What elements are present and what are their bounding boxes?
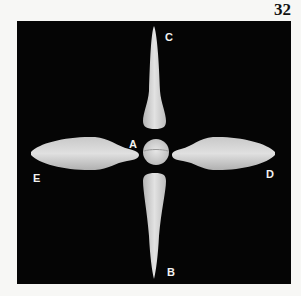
spike-c <box>143 26 166 129</box>
specimen-illustration <box>17 21 291 284</box>
figure-panel: C B A E D <box>17 21 291 284</box>
lobe-e <box>31 137 139 170</box>
lobe-d <box>172 137 275 170</box>
page-number: 32 <box>274 0 291 20</box>
center-node <box>143 139 169 165</box>
label-b: B <box>167 267 175 278</box>
label-d: D <box>266 169 274 180</box>
label-c: C <box>165 32 173 43</box>
label-a: A <box>129 139 137 150</box>
spike-b <box>143 173 166 279</box>
label-e: E <box>33 173 40 184</box>
